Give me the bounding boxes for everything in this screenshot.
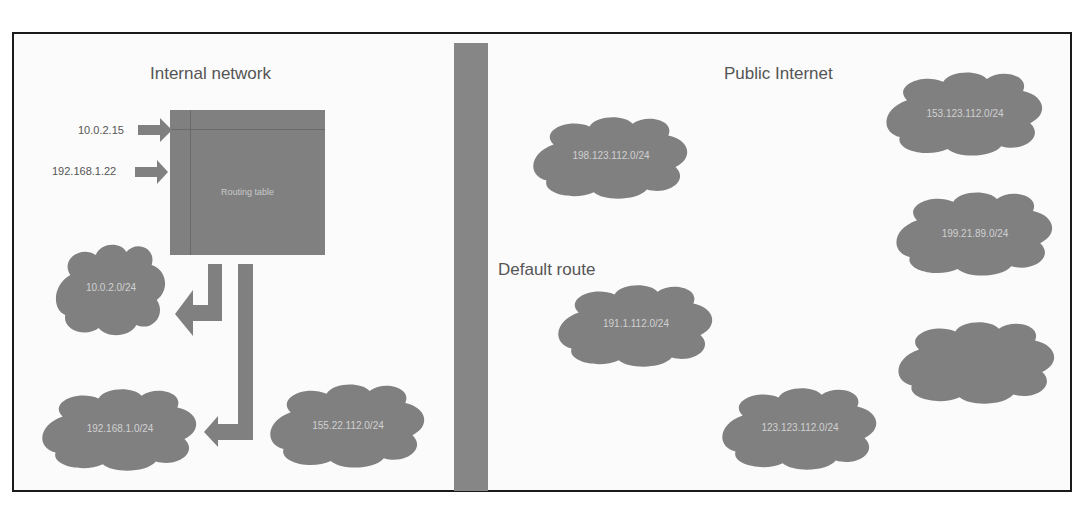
network-cloud: 198.123.112.0/24 (525, 113, 697, 203)
network-cloud: 153.123.112.0/24 (878, 68, 1052, 160)
cloud-label: 155.22.112.0/24 (262, 420, 434, 431)
right-arrow-icon (138, 118, 172, 142)
cloud-label: 10.0.2.0/24 (50, 282, 172, 293)
right-arrow-icon (135, 160, 168, 184)
network-cloud: 199.21.89.0/24 (888, 188, 1062, 280)
cloud-label: 191.1.112.0/24 (550, 318, 722, 329)
cloud-label: 153.123.112.0/24 (878, 108, 1052, 119)
cloud-label: 198.123.112.0/24 (525, 150, 697, 161)
cloud-label: 123.123.112.0/24 (714, 422, 886, 433)
network-cloud: 10.0.2.0/24 (50, 240, 172, 340)
cloud-label: 199.21.89.0/24 (888, 228, 1062, 239)
bent-arrow-left-icon (175, 264, 222, 336)
network-cloud (890, 318, 1064, 408)
network-cloud: 123.123.112.0/24 (714, 384, 886, 474)
network-cloud: 192.168.1.0/24 (34, 385, 206, 475)
cloud-label: 192.168.1.0/24 (34, 423, 206, 434)
network-cloud: 191.1.112.0/24 (550, 281, 722, 371)
cloud-icon (890, 318, 1064, 408)
network-cloud: 155.22.112.0/24 (262, 380, 434, 472)
